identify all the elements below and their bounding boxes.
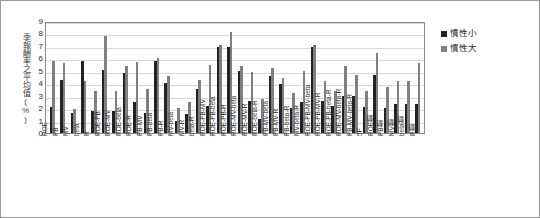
x-axis-label: R動 [408, 124, 415, 136]
chart-container: 季報酬率之平均值(%) 0123456789 ROEPBMVbetaRROE-P… [0, 0, 540, 218]
x-axis-label: ROE-PB-R [219, 104, 226, 136]
bar [84, 81, 87, 133]
bar [63, 63, 66, 133]
y-axis-tick-3: 3 [39, 93, 43, 101]
y-axis-tick-9: 9 [39, 18, 43, 26]
x-label-cell: beta [78, 135, 89, 197]
x-axis-label: beta-R [188, 116, 195, 136]
x-axis-label: ROE-MV [104, 110, 111, 136]
y-axis-tick-2: 2 [39, 105, 43, 113]
x-label-cell: R動 [414, 135, 425, 197]
x-axis-label: ROE-R [125, 115, 132, 136]
x-label-cell: PB-beta-R [288, 135, 299, 197]
x-label-cell: PB-MV-beta [267, 135, 278, 197]
x-label-cell: R [88, 135, 99, 197]
legend-item: 慣性小 [441, 29, 533, 38]
x-axis-label: 5F [356, 128, 363, 136]
x-axis-label: PB-MV-beta-R [345, 94, 352, 136]
x-axis-label: PB-MV-beta [261, 101, 268, 136]
bar-group [57, 23, 67, 133]
x-axis-label: ROE-PB-MV-beta [303, 85, 310, 136]
chart-legend: 慣性小慣性大 [441, 29, 533, 59]
x-label-cell: PB-MV-R [277, 135, 288, 197]
bar [418, 63, 421, 133]
x-axis-label: ROE-PB-MV-R [314, 93, 321, 136]
x-axis-label: PB-beta [146, 113, 153, 137]
x-axis-label: PB-MV [135, 115, 142, 136]
x-label-cell: PB [57, 135, 68, 197]
x-axis-label: ROE-MV-beta-R [335, 89, 342, 136]
x-label-cell: ROE-R [130, 135, 141, 197]
x-label-cell: ROE-PB-beta [214, 135, 225, 197]
x-label-cell: ROE動 [372, 135, 383, 197]
x-axis-label: MV動 [387, 119, 394, 136]
x-axis-label: MV-R [177, 120, 184, 136]
x-axis-label: PB [51, 127, 58, 136]
x-axis-label: MV [62, 126, 69, 136]
x-label-cell: MV-R [183, 135, 194, 197]
x-axis-label: ROE-MV-R [240, 104, 247, 137]
x-axis-label: ROE-MV-beta [230, 96, 237, 136]
x-label-cell: PB-MV-beta-R [351, 135, 362, 197]
x-axis-label: ROE-beta [114, 107, 121, 136]
x-label-cell: 5F [361, 135, 372, 197]
x-label-cell: ROE-beta [120, 135, 131, 197]
legend-label: 慣性小 [450, 29, 477, 38]
x-axis-label: beta [72, 123, 79, 136]
legend-item: 慣性大 [441, 44, 533, 53]
legend-swatch-icon [441, 31, 447, 37]
x-axis-label: MV-beta-R [293, 105, 300, 136]
x-axis-label: R [83, 131, 90, 136]
x-label-cell: ROE-MV-beta-R [340, 135, 351, 197]
x-axis-label: beta動 [398, 116, 405, 136]
y-axis-tick-4: 4 [39, 80, 43, 88]
x-label-cell: PB-MV [141, 135, 152, 197]
y-axis-tick-6: 6 [39, 55, 43, 63]
x-label-cell: ROE-MV [109, 135, 120, 197]
y-axis-tick-labels: 0123456789 [29, 17, 43, 137]
y-axis-tick-7: 7 [39, 43, 43, 51]
bar [52, 61, 55, 133]
x-axis-label: ROE-PB-MV [198, 99, 205, 136]
x-label-cell: ROE-PB-MV-beta [309, 135, 320, 197]
x-label-cell: ROE-MV-beta [235, 135, 246, 197]
x-label-cell: ROE-PB-MV [204, 135, 215, 197]
x-label-cell: beta-R [193, 135, 204, 197]
x-label-cell: MV動 [393, 135, 404, 197]
bar [355, 75, 358, 133]
x-axis-label: PB-R [156, 120, 163, 136]
bar-group [172, 23, 182, 133]
x-label-cell: ROE-beta-R [256, 135, 267, 197]
bar-group [47, 23, 57, 133]
x-axis-label: ROE動 [366, 115, 373, 136]
legend-label: 慣性大 [450, 44, 477, 53]
x-label-cell: PB-R [162, 135, 173, 197]
y-axis-tick-8: 8 [39, 30, 43, 38]
x-axis-label: MV-beta [167, 112, 174, 136]
bar-group [68, 23, 78, 133]
x-axis-label: ROE [41, 122, 48, 136]
x-label-cell: MV-beta [172, 135, 183, 197]
y-axis-title: 季報酬率之平均值(%) [15, 21, 29, 136]
legend-swatch-icon [441, 46, 447, 52]
x-axis-label: PB-beta-R [282, 106, 289, 136]
bar-group [78, 23, 88, 133]
x-axis-label: ROE-PB-beta-R [324, 89, 331, 136]
x-axis-label: PB-MV-R [272, 109, 279, 136]
x-axis-tick-labels: ROEPBMVbetaRROE-PBROE-MVROE-betaROE-RPB-… [45, 135, 425, 197]
x-label-cell: ROE-PB [99, 135, 110, 197]
x-label-cell: MV-beta-R [298, 135, 309, 197]
x-axis-label: ROE-beta-R [251, 100, 258, 136]
x-label-cell: ROE-MV-R [246, 135, 257, 197]
x-label-cell: beta動 [403, 135, 414, 197]
bar-group [412, 23, 422, 133]
x-axis-label: PB動 [377, 120, 384, 136]
x-label-cell: ROE-PB-beta-R [330, 135, 341, 197]
x-label-cell: ROE [46, 135, 57, 197]
x-label-cell: ROE-PB-MV-R [319, 135, 330, 197]
x-label-cell: PB動 [382, 135, 393, 197]
x-label-cell: MV [67, 135, 78, 197]
x-label-cell: PB-beta [151, 135, 162, 197]
bar-group [151, 23, 161, 133]
x-label-cell: ROE-PB-R [225, 135, 236, 197]
